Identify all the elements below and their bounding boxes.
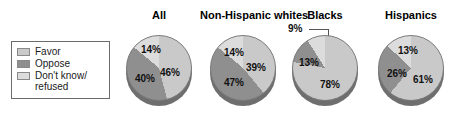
pie-chart-figure: Favor Oppose Don't know/ refused All 46%… bbox=[0, 0, 461, 121]
pie-label-blacks-oppose: 13% bbox=[299, 57, 319, 68]
pie-title-blacks: Blacks bbox=[282, 9, 368, 21]
pie-title-all: All bbox=[116, 9, 202, 21]
pie-chart-non-hispanic-whites: Non-Hispanic whites 39% 47% 14% bbox=[200, 0, 286, 121]
legend-label-dont-know-line2: refused bbox=[35, 81, 87, 92]
legend: Favor Oppose Don't know/ refused bbox=[11, 41, 110, 99]
pie-label-all-oppose: 40% bbox=[135, 73, 155, 84]
legend-swatch-oppose bbox=[17, 60, 30, 68]
pie-wrap-blacks: 78% 13% bbox=[292, 35, 358, 101]
pie-label-nhw-oppose: 47% bbox=[224, 77, 244, 88]
legend-item-oppose: Oppose bbox=[17, 58, 109, 69]
pie-wrap-all: 46% 40% 14% bbox=[126, 35, 192, 101]
pie-label-all-favor: 46% bbox=[160, 67, 180, 78]
legend-label-dont-know-line1: Don't know/ bbox=[35, 70, 87, 81]
pie-chart-blacks: Blacks 9% 78% 13% bbox=[282, 0, 368, 121]
legend-swatch-dont-know-refused bbox=[17, 72, 30, 80]
legend-label-dont-know-refused: Don't know/ refused bbox=[35, 70, 87, 92]
legend-label-favor: Favor bbox=[35, 46, 61, 57]
legend-item-dont-know-refused: Don't know/ refused bbox=[17, 70, 109, 92]
pie-label-nhw-dontknow: 14% bbox=[224, 47, 244, 58]
pie-wrap-hispanics: 61% 26% 13% bbox=[378, 35, 444, 101]
pie-disc-blacks bbox=[292, 35, 358, 101]
pie-label-all-dontknow: 14% bbox=[141, 44, 161, 55]
pie-chart-hispanics: Hispanics 61% 26% 13% bbox=[368, 0, 454, 121]
legend-label-oppose: Oppose bbox=[35, 58, 70, 69]
pie-chart-all: All 46% 40% 14% bbox=[116, 0, 202, 121]
pie-label-blacks-dontknow: 9% bbox=[288, 23, 302, 34]
pie-label-blacks-favor: 78% bbox=[320, 79, 340, 90]
pie-label-hispanics-dontknow: 13% bbox=[398, 45, 418, 56]
pie-label-hispanics-oppose: 26% bbox=[387, 68, 407, 79]
pie-wrap-non-hispanic-whites: 39% 47% 14% bbox=[210, 35, 276, 101]
pie-title-hispanics: Hispanics bbox=[368, 9, 454, 21]
legend-item-favor: Favor bbox=[17, 46, 109, 57]
pie-disc-non-hispanic-whites bbox=[210, 35, 276, 101]
leader-line-blacks bbox=[309, 29, 329, 30]
legend-swatch-favor bbox=[17, 48, 30, 56]
pie-label-hispanics-favor: 61% bbox=[413, 74, 433, 85]
pie-label-nhw-favor: 39% bbox=[246, 62, 266, 73]
pie-title-non-hispanic-whites: Non-Hispanic whites bbox=[200, 9, 286, 21]
